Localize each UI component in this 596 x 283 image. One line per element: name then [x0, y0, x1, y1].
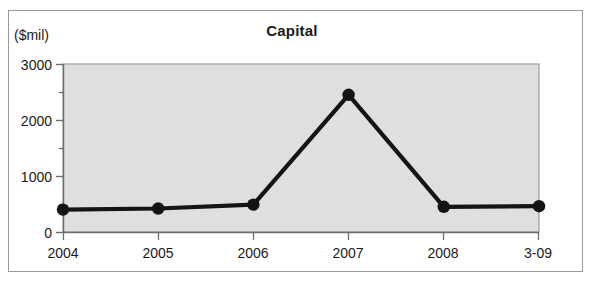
data-point-2006: [247, 198, 259, 210]
chart-figure: Capital ($mil) 3000: [0, 0, 596, 283]
data-point-3-09: [533, 200, 545, 212]
data-point-2005: [152, 202, 164, 214]
data-point-2004: [57, 203, 69, 215]
y-tick-label-2000: 2000: [21, 113, 52, 129]
line-chart-plot: 3000 2000 1000 0 2004 2005 2006 2007 200…: [0, 0, 596, 283]
x-tick-label-2008: 2008: [427, 245, 458, 261]
x-tick-label-2005: 2005: [142, 245, 173, 261]
x-tick-label-2004: 2004: [47, 245, 78, 261]
y-tick-label-1000: 1000: [21, 169, 52, 185]
y-axis-minor-ticks: [59, 93, 63, 205]
y-tick-label-0: 0: [44, 225, 52, 241]
y-tick-label-3000: 3000: [21, 57, 52, 73]
x-tick-label-3-09: 3-09: [524, 245, 552, 261]
data-point-2008: [438, 201, 450, 213]
x-tick-label-2006: 2006: [237, 245, 268, 261]
x-tick-label-2007: 2007: [332, 245, 363, 261]
data-point-2007: [342, 89, 354, 101]
